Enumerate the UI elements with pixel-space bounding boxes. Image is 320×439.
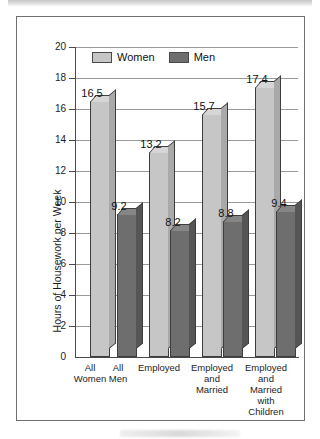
x-axis-label-employed-and-married-with-children: Employed and Married with Children [239, 362, 293, 417]
bar-employed-married-men[interactable] [223, 221, 243, 357]
y-tick-8: 8 [42, 228, 66, 238]
bar-all-women[interactable] [90, 101, 110, 357]
bar-side-face [242, 209, 249, 349]
bar-employed-married-children-women[interactable] [255, 87, 275, 357]
legend-label-men: Men [194, 52, 215, 63]
legend: Women Men [92, 52, 215, 63]
bar-side-face [136, 202, 143, 349]
chart-figure: Hours of Housework per Week 20 18 16 14 … [0, 0, 320, 439]
bar-value-17-4: 17.4 [237, 73, 277, 85]
legend-item-women[interactable]: Women [92, 52, 155, 63]
scan-artifact-bottom [120, 430, 240, 437]
bar-value-15-7: 15.7 [184, 100, 224, 112]
y-tick-2: 2 [42, 321, 66, 331]
women-swatch-icon [92, 52, 112, 63]
y-tick-18: 18 [42, 73, 66, 83]
men-swatch-icon [169, 52, 189, 63]
y-tick-14: 14 [42, 135, 66, 145]
bar-value-13-2: 13.2 [131, 138, 171, 150]
legend-item-men[interactable]: Men [169, 52, 215, 63]
y-tick-10: 10 [42, 197, 66, 207]
y-tick-12: 12 [42, 166, 66, 176]
bar-employed-women[interactable] [149, 152, 169, 357]
bar-employed-married-children-men[interactable] [276, 211, 296, 357]
bar-value-8-2: 8.2 [153, 216, 193, 228]
bar-side-face [109, 89, 116, 349]
bar-employed-married-women[interactable] [202, 114, 222, 357]
y-tick-20: 20 [42, 42, 66, 52]
y-tick-16: 16 [42, 104, 66, 114]
legend-label-women: Women [117, 52, 155, 63]
y-tick-0: 0 [42, 352, 66, 362]
y-tick-4: 4 [42, 290, 66, 300]
bar-value-9-4: 9.4 [259, 197, 299, 209]
bar-all-men[interactable] [117, 214, 137, 357]
x-axis-line [75, 357, 299, 358]
bar-value-16-5: 16.5 [72, 87, 112, 99]
bar-value-8-8: 8.8 [206, 207, 246, 219]
bar-side-face [295, 199, 302, 349]
y-tick-6: 6 [42, 259, 66, 269]
x-axis-label-employed: Employed [132, 362, 186, 373]
bar-value-9-2: 9.2 [99, 200, 139, 212]
bar-side-face [189, 218, 196, 349]
bar-employed-men[interactable] [170, 230, 190, 357]
y-axis-title-holder: Hours of Housework per Week [22, 105, 36, 305]
x-axis-label-employed-and-married: Employed and Married [185, 362, 239, 395]
gridline-20 [76, 47, 298, 48]
y-axis-tick-labels: 20 18 16 14 12 10 8 6 4 2 0 [40, 0, 66, 405]
